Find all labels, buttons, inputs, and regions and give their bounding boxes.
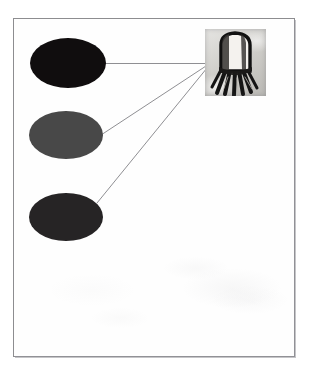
photo-inset-component <box>205 29 266 96</box>
blob-ellipse-3 <box>29 193 103 241</box>
figure-canvas <box>0 0 318 375</box>
leader-line-2 <box>101 66 206 135</box>
tube-component-icon <box>205 29 266 96</box>
leader-line-3 <box>97 68 207 203</box>
blob-ellipse-2 <box>29 111 103 159</box>
blob-ellipse-1 <box>30 38 106 88</box>
